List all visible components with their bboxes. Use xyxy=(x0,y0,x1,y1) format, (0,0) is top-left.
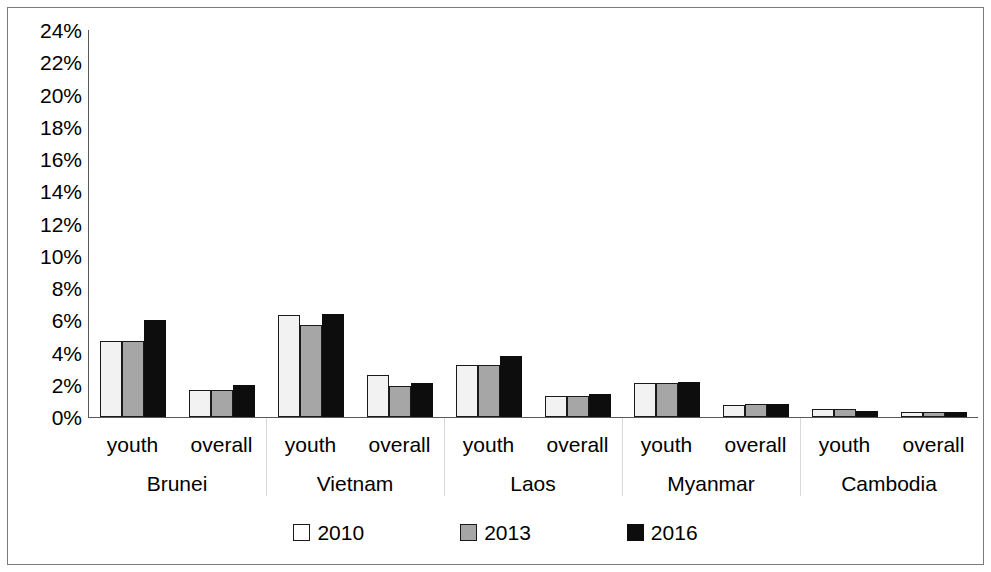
y-axis-tick-label: 10% xyxy=(8,245,82,266)
bar xyxy=(278,315,300,417)
bar xyxy=(901,412,923,417)
y-axis-tick-label: 22% xyxy=(8,52,82,73)
x-axis-group-label: Cambodia xyxy=(841,473,937,494)
legend-item: 2013 xyxy=(460,522,531,543)
legend-label: 2013 xyxy=(484,522,531,543)
bar xyxy=(456,365,478,417)
x-axis-group-label: Laos xyxy=(510,473,556,494)
bar xyxy=(144,320,166,417)
y-axis-tick-label: 6% xyxy=(8,310,82,331)
bar xyxy=(389,386,411,417)
y-axis-tick-label: 18% xyxy=(8,116,82,137)
bar xyxy=(923,412,945,417)
group-separator xyxy=(266,418,267,496)
bar xyxy=(545,396,567,417)
bar xyxy=(812,409,834,417)
bar xyxy=(656,383,678,417)
legend-swatch-icon xyxy=(460,524,477,541)
x-axis-group-label: Myanmar xyxy=(667,473,755,494)
bar xyxy=(478,365,500,417)
x-axis-sub-label: overall xyxy=(725,434,787,455)
chart-legend: 201020132016 xyxy=(0,515,991,549)
bar xyxy=(678,382,700,417)
bar xyxy=(767,404,789,417)
bar xyxy=(411,383,433,417)
x-axis-sub-label: overall xyxy=(903,434,965,455)
group-separator xyxy=(444,418,445,496)
x-axis-sub-label: youth xyxy=(463,434,514,455)
x-axis: youthoverallBruneiyouthoverallVietnamyou… xyxy=(88,418,978,508)
bar xyxy=(723,405,745,417)
legend-item: 2010 xyxy=(293,522,364,543)
bar xyxy=(367,375,389,417)
x-axis-sub-label: youth xyxy=(641,434,692,455)
bar xyxy=(322,314,344,417)
y-axis-tick-label: 24% xyxy=(8,20,82,41)
bar-chart-figure: 24%22%20%18%16%14%12%10%8%6%4%2%0% youth… xyxy=(0,0,991,572)
y-axis-tick-label: 20% xyxy=(8,84,82,105)
x-axis-group-label: Vietnam xyxy=(317,473,394,494)
bar xyxy=(834,409,856,417)
y-axis-tick-label: 8% xyxy=(8,278,82,299)
x-axis-group-label: Brunei xyxy=(147,473,208,494)
y-axis-tick-label: 14% xyxy=(8,181,82,202)
group-separator xyxy=(800,418,801,496)
legend-swatch-icon xyxy=(293,524,310,541)
bars-layer xyxy=(88,30,978,417)
bar xyxy=(856,411,878,417)
y-axis: 24%22%20%18%16%14%12%10%8%6%4%2%0% xyxy=(0,0,82,572)
bar xyxy=(211,390,233,417)
x-axis-sub-label: youth xyxy=(819,434,870,455)
bar xyxy=(634,383,656,417)
legend-item: 2016 xyxy=(627,522,698,543)
legend-label: 2016 xyxy=(651,522,698,543)
y-axis-tick-label: 16% xyxy=(8,149,82,170)
bar xyxy=(300,325,322,417)
bar xyxy=(122,341,144,417)
x-axis-sub-label: overall xyxy=(191,434,253,455)
y-axis-tick-label: 4% xyxy=(8,342,82,363)
bar xyxy=(567,396,589,417)
legend-swatch-icon xyxy=(627,524,644,541)
x-axis-sub-label: youth xyxy=(107,434,158,455)
x-axis-sub-label: youth xyxy=(285,434,336,455)
bar xyxy=(500,356,522,417)
bar xyxy=(233,385,255,417)
group-separator xyxy=(622,418,623,496)
x-axis-sub-label: overall xyxy=(369,434,431,455)
bar xyxy=(189,390,211,417)
bar xyxy=(589,394,611,417)
bar xyxy=(945,412,967,417)
y-axis-tick-label: 12% xyxy=(8,213,82,234)
legend-label: 2010 xyxy=(317,522,364,543)
x-axis-sub-label: overall xyxy=(547,434,609,455)
y-axis-tick-label: 2% xyxy=(8,374,82,395)
y-axis-tick-label: 0% xyxy=(8,407,82,428)
bar xyxy=(100,341,122,417)
bar xyxy=(745,404,767,417)
